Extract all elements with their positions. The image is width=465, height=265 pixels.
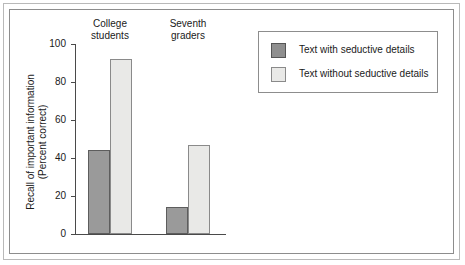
y-axis-tick-20: [71, 196, 76, 197]
y-axis-tick-label-100: 100: [24, 39, 66, 49]
y-axis-title-line1: Recall of important information: [25, 74, 36, 210]
bar-seventh-without: [188, 145, 210, 234]
y-axis-line: [75, 44, 76, 235]
category-label-line1: Seventh: [153, 18, 223, 30]
y-axis-tick-60: [71, 120, 76, 121]
bar-chart: 020406080100 Recall of important informa…: [0, 0, 465, 265]
y-axis-title: Recall of important information (Percent…: [25, 52, 49, 232]
legend-item-with-seductive-details: Text with seductive details: [271, 42, 415, 58]
category-label-seventh-graders: Seventhgraders: [153, 18, 223, 42]
legend-label-1: Text without seductive details: [299, 68, 429, 80]
bar-seventh-with: [166, 207, 188, 234]
category-label-college-students: Collegestudents: [75, 18, 145, 42]
chart-legend: Text with seductive details Text without…: [258, 31, 438, 93]
bar-college-without: [110, 59, 132, 234]
x-axis-line: [75, 234, 226, 235]
y-axis-tick-80: [71, 82, 76, 83]
bar-college-with: [88, 150, 110, 234]
category-label-line2: graders: [153, 30, 223, 42]
legend-swatch-light-icon: [271, 67, 286, 82]
legend-swatch-dark-icon: [271, 43, 286, 58]
legend-label-0: Text with seductive details: [299, 44, 415, 56]
y-axis-tick-40: [71, 158, 76, 159]
legend-item-without-seductive-details: Text without seductive details: [271, 66, 429, 82]
category-label-line2: students: [75, 30, 145, 42]
y-axis-tick-0: [71, 234, 76, 235]
y-axis-title-line2: (Percent correct): [37, 52, 49, 232]
category-label-line1: College: [75, 18, 145, 30]
y-axis-tick-100: [71, 44, 76, 45]
